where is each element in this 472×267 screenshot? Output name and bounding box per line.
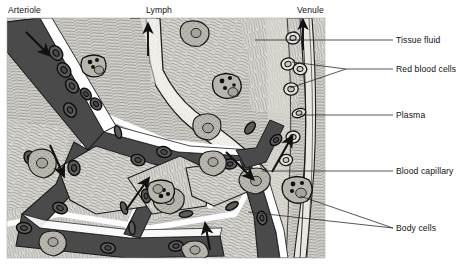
label-lymph: Lymph [146,5,172,15]
label-plasma: Plasma [396,110,425,120]
label-blood-capillary: Blood capillary [396,166,454,176]
label-venule: Venule [297,5,324,15]
label-arteriole: Arteriole [8,5,41,15]
figure-container: Arteriole Lymph Venule Tissue fluid Red … [0,0,472,267]
label-red-blood-cells: Red blood cells [396,64,456,74]
side-labels: Tissue fluid Red blood cells Plasma Bloo… [396,35,456,233]
label-body-cells: Body cells [396,223,436,233]
diagram-svg: Arteriole Lymph Venule Tissue fluid Red … [0,0,472,267]
top-labels: Arteriole Lymph Venule [8,5,324,15]
diagram-panel [7,18,325,258]
label-tissue-fluid: Tissue fluid [396,35,440,45]
